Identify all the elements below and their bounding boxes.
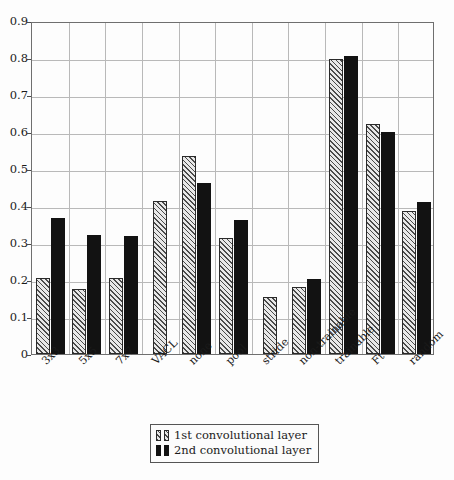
bar-random-s2 [417, 202, 431, 354]
plot-area [31, 22, 434, 355]
y-axis-tick-label: 0.8 [2, 53, 28, 65]
bar-3x3-s2 [51, 218, 65, 354]
gridline-vertical [142, 23, 143, 354]
bar-5x5-s1 [72, 289, 86, 354]
chart-legend: 1st convolutional layer 2nd convolutiona… [150, 424, 319, 463]
bar-3x3-s1 [36, 278, 50, 354]
gridline-vertical [325, 23, 326, 354]
bar-ft-s2 [381, 132, 395, 354]
gridline-vertical [215, 23, 216, 354]
gridline-horizontal [32, 97, 433, 98]
bar-pool-s1 [219, 238, 233, 354]
y-axis-tick-label: 0.9 [2, 16, 28, 28]
bar-non-trainable-s1 [292, 287, 306, 354]
gridline-vertical [179, 23, 180, 354]
y-axis-tick-label: 0.6 [2, 127, 28, 139]
y-axis-tick-label: 0.1 [2, 312, 28, 324]
bar-vacl-s1 [153, 201, 167, 354]
gridline-vertical [105, 23, 106, 354]
gridline-vertical [288, 23, 289, 354]
y-axis-tick-label: 0.5 [2, 164, 28, 176]
bar-random-s1 [402, 211, 416, 354]
legend-item-series-1: 1st convolutional layer [156, 428, 311, 443]
legend-item-series-2: 2nd convolutional layer [156, 443, 311, 458]
bar-none-s1 [182, 156, 196, 354]
legend-swatch-hatched-icon [156, 430, 169, 441]
bar-7x7-s2 [124, 236, 138, 354]
bar-pool-s2 [234, 220, 248, 354]
bar-ft-s1 [366, 124, 380, 354]
legend-swatch-solid-icon [156, 445, 169, 456]
y-axis-tick-label: 0.3 [2, 238, 28, 250]
bar-none-s2 [197, 183, 211, 354]
x-axis: 3x35x57x7VACLnonepoolstridenon-trainable… [31, 356, 434, 426]
gridline-horizontal [32, 60, 433, 61]
gridline-vertical [362, 23, 363, 354]
gridline-vertical [398, 23, 399, 354]
y-axis: 00.10.20.30.40.50.60.70.80.9 [0, 0, 28, 480]
gridline-vertical [252, 23, 253, 354]
y-axis-tick-label: 0.7 [2, 90, 28, 102]
y-axis-tick-label: 0 [2, 349, 28, 361]
y-axis-tick-label: 0.4 [2, 201, 28, 213]
chart-page: 00.10.20.30.40.50.60.70.80.9 3x35x57x7VA… [0, 0, 454, 480]
y-axis-tick-label: 0.2 [2, 275, 28, 287]
legend-label-series-2: 2nd convolutional layer [174, 445, 311, 457]
gridline-vertical [69, 23, 70, 354]
bar-trainable-s1 [329, 59, 343, 354]
bar-7x7-s1 [109, 278, 123, 354]
legend-label-series-1: 1st convolutional layer [174, 430, 307, 442]
bar-5x5-s2 [87, 235, 101, 354]
